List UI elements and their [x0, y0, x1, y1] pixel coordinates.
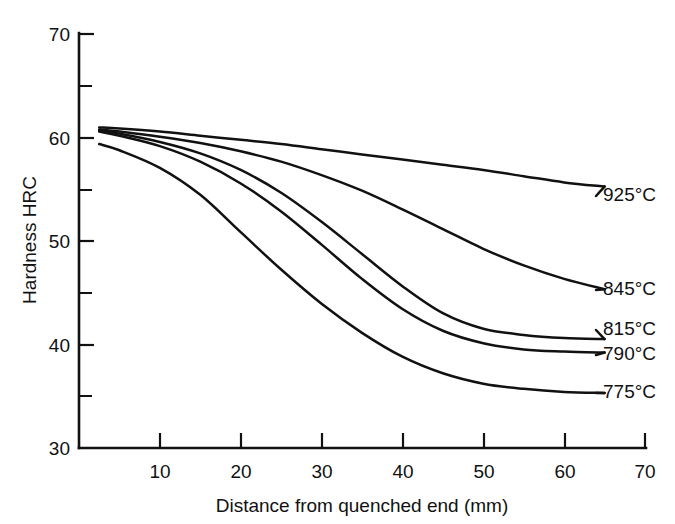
y-axis-ticks — [79, 34, 94, 396]
series-label-790c: 790°C — [603, 343, 656, 364]
y-tick-label-30: 30 — [49, 438, 70, 459]
x-tick-label-10: 10 — [149, 461, 170, 482]
y-tick-label-70: 70 — [49, 24, 70, 45]
series-label-845c: 845°C — [603, 278, 656, 299]
y-axis-tick-labels: 70 60 50 40 30 — [49, 24, 70, 459]
x-tick-label-50: 50 — [473, 461, 494, 482]
x-axis-tick-labels: 10 20 30 40 50 60 70 — [149, 461, 655, 482]
y-tick-label-60: 60 — [49, 128, 70, 149]
series-label-815c: 815°C — [603, 318, 656, 339]
series-label-775c: 775°C — [603, 381, 656, 402]
x-tick-label-20: 20 — [230, 461, 251, 482]
y-tick-label-40: 40 — [49, 335, 70, 356]
chart-canvas: 70 60 50 40 30 10 20 30 40 50 60 70 Dist… — [0, 0, 675, 524]
y-tick-label-50: 50 — [49, 231, 70, 252]
y-axis-title: Hardness HRC — [19, 176, 40, 304]
curve-815c — [99, 131, 604, 340]
series-label-925c: 925°C — [603, 184, 656, 205]
axis-lines — [79, 33, 646, 448]
x-axis-title: Distance from quenched end (mm) — [216, 495, 509, 516]
x-tick-label-70: 70 — [634, 461, 655, 482]
series-labels: 925°C845°C815°C790°C775°C — [596, 184, 656, 402]
x-axis-ticks — [160, 433, 645, 448]
curve-790c — [99, 132, 604, 353]
x-tick-label-60: 60 — [554, 461, 575, 482]
x-tick-label-40: 40 — [392, 461, 413, 482]
data-curves — [99, 127, 604, 393]
x-tick-label-30: 30 — [311, 461, 332, 482]
jominy-hardenability-chart: 70 60 50 40 30 10 20 30 40 50 60 70 Dist… — [0, 0, 675, 524]
